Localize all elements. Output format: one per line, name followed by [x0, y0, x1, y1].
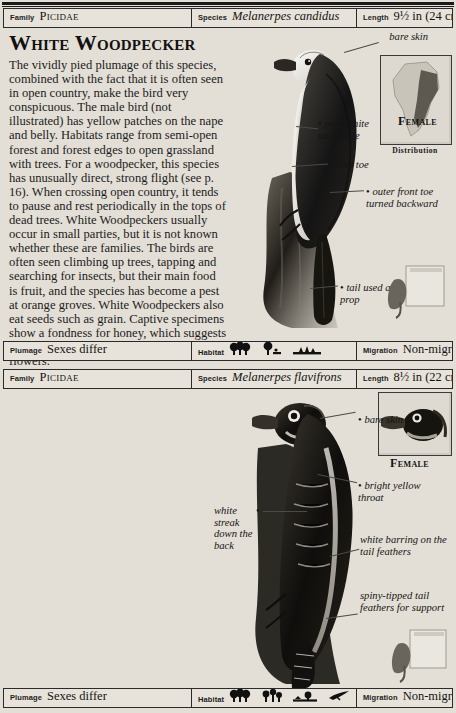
- habitat-icon-group: [229, 342, 321, 356]
- forest-icon: [229, 689, 251, 702]
- body-paragraph: The vividly pied plumage of this species…: [9, 58, 227, 366]
- callout-text: hind toe: [334, 159, 368, 170]
- length-value: 8½ in (22 cm): [394, 370, 452, 385]
- entry-header-bar: Family Picidae Species Melanerpes candid…: [3, 8, 453, 28]
- family-label: Family: [10, 13, 34, 22]
- migration-value: Non-migrant: [403, 342, 452, 357]
- callout-dot: •: [340, 282, 344, 293]
- body-text: The vividly pied plumage of this species…: [9, 58, 226, 366]
- callout-text: spiny-tipped tail feathers for support: [360, 590, 444, 613]
- family-label: Family: [10, 374, 34, 383]
- family-value: Picidae: [39, 370, 79, 385]
- callout-text: outer front toe turned backward: [366, 186, 438, 209]
- habitat-cell: Habitat: [191, 689, 356, 707]
- entry-footer-bar: Plumage Sexes differ Habitat: [3, 341, 453, 361]
- habitat-label: Habitat: [198, 695, 224, 704]
- length-label: Length: [363, 374, 389, 383]
- length-value: 9½ in (24 cm): [394, 9, 452, 24]
- female-caption: Female: [398, 114, 437, 129]
- callout-dot: •: [366, 186, 370, 197]
- field-guide-page: Family Picidae Species Melanerpes candid…: [0, 0, 456, 713]
- species-entry-white-woodpecker: Family Picidae Species Melanerpes candid…: [0, 0, 456, 366]
- callout-bright-yellow-throat: • bright yellow throat: [358, 480, 444, 503]
- length-cell: Length 8½ in (22 cm): [356, 370, 452, 388]
- plumage-value: Sexes differ: [47, 689, 107, 704]
- habitat-cell: Habitat: [191, 342, 356, 360]
- callout-text: white streak down the back: [214, 505, 253, 551]
- scattered-trees-icon: [293, 689, 317, 702]
- habitat-label: Habitat: [198, 348, 224, 357]
- migration-cell: Migration Non-migrant: [356, 689, 452, 707]
- forest-icon: [229, 342, 251, 355]
- species-entry-yellow-fronted-woodpecker: Family Picidae Species Melanerpes flavif…: [0, 366, 456, 713]
- callout-dot-white-streak: •: [256, 505, 260, 517]
- perched-bird-vignette: [384, 262, 446, 320]
- species-label: Species: [198, 13, 227, 22]
- callout-dot: •: [328, 159, 332, 170]
- perched-bird-vignette: [386, 628, 448, 684]
- length-label: Length: [363, 13, 389, 22]
- callout-bare-skin: • bare skin: [358, 414, 410, 426]
- callout-bare-skin: bare skin: [384, 31, 444, 43]
- female-caption: Female: [390, 456, 429, 471]
- callout-dot: •: [256, 505, 260, 516]
- flight-icon: [328, 689, 350, 702]
- callout-outer-front-toe: • outer front toe turned backward: [366, 186, 450, 209]
- family-cell: Family Picidae: [4, 9, 191, 27]
- leader-line: [263, 511, 307, 512]
- entry-header-bar: Family Picidae Species Melanerpes flavif…: [3, 369, 453, 389]
- callout-text: bare skin: [364, 414, 403, 425]
- callout-dot: •: [318, 118, 322, 129]
- open-woodland-icon: [262, 342, 282, 355]
- family-value: Picidae: [39, 9, 79, 24]
- migration-cell: Migration Non-migrant: [356, 342, 452, 360]
- species-cell: Species Melanerpes flavifrons: [191, 370, 356, 388]
- open-woodland-icon: [262, 689, 282, 702]
- callout-pure-white-underside: • pure white underside: [318, 118, 396, 141]
- length-cell: Length 9½ in (24 cm): [356, 9, 452, 27]
- species-value: Melanerpes candidus: [232, 9, 339, 24]
- migration-label: Migration: [363, 693, 398, 702]
- page-title: White Woodpecker: [9, 32, 196, 54]
- top-rule-thin: [2, 6, 454, 7]
- callout-text: white barring on the tail feathers: [360, 534, 447, 557]
- plumage-value: Sexes differ: [47, 342, 107, 357]
- callout-dot: •: [358, 480, 362, 491]
- callout-hind-toe: • hind toe: [328, 159, 398, 171]
- species-cell: Species Melanerpes candidus: [191, 9, 356, 27]
- callout-white-barring-tail: white barring on the tail feathers: [360, 534, 452, 557]
- callout-white-streak-down-back: white streak down the back: [214, 505, 260, 551]
- family-cell: Family Picidae: [4, 370, 191, 388]
- callout-text: bare skin: [389, 31, 428, 42]
- grassland-icon: [293, 342, 321, 355]
- callout-spiny-tipped-tail: spiny-tipped tail feathers for support: [360, 590, 446, 613]
- species-label: Species: [198, 374, 227, 383]
- callout-dot: •: [358, 414, 362, 425]
- plumage-label: Plumage: [10, 346, 42, 355]
- plumage-label: Plumage: [10, 693, 42, 702]
- entry-body: The vividly pied plumage of this species…: [9, 58, 227, 366]
- migration-label: Migration: [363, 346, 398, 355]
- habitat-icon-group: [229, 689, 350, 703]
- plumage-cell: Plumage Sexes differ: [4, 689, 191, 707]
- callout-text: bright yellow throat: [358, 480, 421, 503]
- map-caption: Distribution: [380, 146, 450, 155]
- entry-footer-bar: Plumage Sexes differ Habitat: [3, 688, 453, 708]
- top-rule: [2, 2, 454, 5]
- callout-dot: [384, 31, 387, 42]
- migration-value: Non-migrant: [403, 689, 452, 704]
- callout-text: pure white underside: [318, 118, 369, 141]
- species-value: Melanerpes flavifrons: [232, 370, 342, 385]
- plumage-cell: Plumage Sexes differ: [4, 342, 191, 360]
